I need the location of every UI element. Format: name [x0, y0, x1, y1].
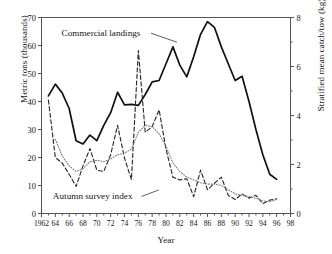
x-tick-label: 86 [204, 219, 212, 228]
y-tick-label-right: 2 [297, 160, 301, 170]
y-axis-right-title: Stratified mean catch/tow (kg) [316, 0, 326, 130]
x-tick-label: 92 [245, 219, 253, 228]
chart-figure: 1962646668707274767880828486889092949698… [0, 0, 332, 254]
y-tick-label-left: 0 [32, 209, 36, 219]
y-axis-left-title: Metric tons (thousands) [19, 0, 29, 129]
x-tick-label: 74 [121, 219, 129, 228]
x-tick-label: 78 [148, 219, 156, 228]
x-tick-label: 72 [107, 219, 115, 228]
x-tick-label: 88 [218, 219, 226, 228]
x-tick-label: 84 [190, 219, 198, 228]
data-series-group [48, 22, 276, 204]
x-tick-label: 70 [93, 219, 101, 228]
annotation-label: Autumn survey index [53, 191, 133, 201]
x-tick-label: 96 [273, 219, 281, 228]
annotation-label: Commercial landings [62, 28, 141, 38]
x-tick-label: 80 [162, 219, 170, 228]
x-tick-label: 94 [259, 219, 267, 228]
y-tick-label-right: 8 [297, 13, 301, 23]
x-tick-label: 90 [231, 219, 239, 228]
y-axis-left-ticks: 010203040506070 [28, 13, 42, 219]
y-tick-label-right: 0 [297, 209, 301, 219]
series-annotations: Commercial landingsAutumn survey index [53, 28, 177, 201]
chart-plot-area: 1962646668707274767880828486889092949698… [0, 0, 332, 254]
y-tick-label-right: 6 [297, 62, 301, 72]
x-tick-label: 68 [79, 219, 87, 228]
y-axis-right-ticks: 02468 [291, 13, 302, 219]
x-tick-label: 66 [65, 219, 73, 228]
x-axis-ticks: 1962646668707274767880828486889092949698 [34, 214, 295, 229]
x-axis-title: Year [0, 235, 332, 245]
x-tick-label: 76 [135, 219, 143, 228]
y-tick-label-left: 20 [28, 153, 37, 163]
x-tick-label: 82 [176, 219, 184, 228]
series-line-commercial-landings [48, 22, 276, 180]
y-tick-label-left: 10 [28, 181, 37, 191]
x-tick-label: 98 [287, 219, 295, 228]
y-tick-label-right: 4 [297, 111, 302, 121]
x-tick-label: 1962 [34, 219, 49, 228]
x-tick-label: 64 [52, 219, 60, 228]
